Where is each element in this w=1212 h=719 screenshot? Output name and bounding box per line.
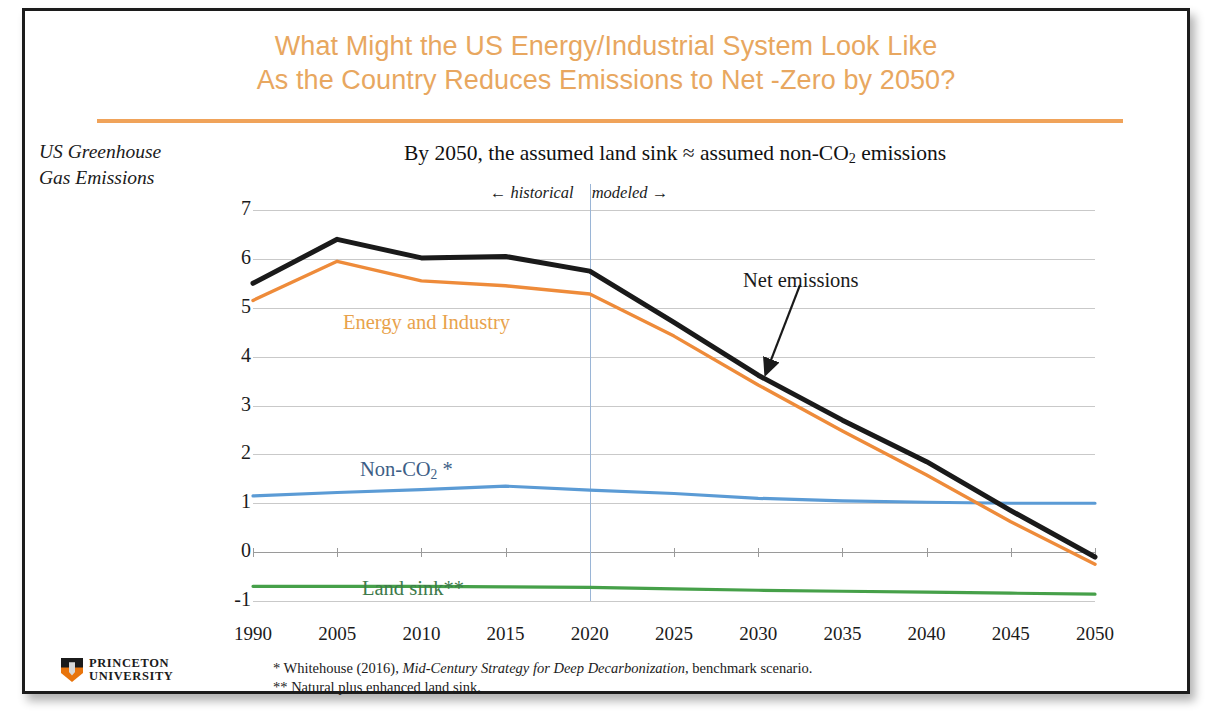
chart-title-post: emissions	[856, 141, 946, 165]
x-axis-tick-labels: 1990200520102015202020252030203520402045…	[253, 623, 1095, 649]
chart-side-caption: US Greenhouse Gas Emissions	[39, 139, 209, 191]
y-tick-7: 7	[221, 197, 251, 220]
side-caption-line-1: US Greenhouse	[39, 139, 209, 165]
princeton-logo: PRINCETON UNIVERSITY	[61, 657, 174, 683]
x-tick-2035: 2035	[823, 623, 861, 645]
x-tick-2050: 2050	[1076, 623, 1114, 645]
net-emissions-arrow	[253, 210, 1095, 601]
series-label-net-emissions: Net emissions	[743, 269, 859, 292]
y-axis-tick-labels: 76543210-1	[221, 191, 251, 621]
gridline--1	[253, 601, 1095, 602]
title-line-2: As the Country Reduces Emissions to Net …	[25, 63, 1187, 97]
x-tick-2040: 2040	[908, 623, 946, 645]
series-label-non-co2: Non-CO2 *	[360, 458, 453, 483]
x-tick-2005: 2005	[318, 623, 356, 645]
footnote-one: * Whitehouse (2016), Mid-Century Strateg…	[273, 659, 812, 678]
slide-title: What Might the US Energy/Industrial Syst…	[25, 29, 1187, 97]
footnote-one-suffix: , benchmark scenario.	[685, 660, 812, 676]
y-tick--1: -1	[221, 588, 251, 611]
y-tick-4: 4	[221, 344, 251, 367]
x-tick-2025: 2025	[655, 623, 693, 645]
footnote-two: ** Natural plus enhanced land sink.	[273, 678, 812, 697]
series-label-land-sink: Land sink**	[362, 577, 464, 600]
era-annotation: ← historicalmodeled →	[490, 183, 668, 203]
y-tick-2: 2	[221, 441, 251, 464]
chart-title-sub: 2	[849, 150, 856, 166]
chart-title: By 2050, the assumed land sink ≈ assumed…	[225, 141, 1125, 167]
x-tick-2030: 2030	[739, 623, 777, 645]
era-modeled-label: modeled →	[583, 183, 669, 202]
x-tick-2020: 2020	[571, 623, 609, 645]
x-tick-2045: 2045	[992, 623, 1030, 645]
logo-line-2: UNIVERSITY	[89, 670, 174, 683]
shield-icon	[61, 658, 83, 682]
logo-wordmark: PRINCETON UNIVERSITY	[89, 657, 174, 683]
y-tick-3: 3	[221, 393, 251, 416]
x-tick-1990: 1990	[234, 623, 272, 645]
y-tick-5: 5	[221, 295, 251, 318]
non-co2-pre: Non-CO	[360, 458, 431, 480]
non-co2-post: *	[437, 458, 452, 480]
slide-frame: What Might the US Energy/Industrial Syst…	[22, 8, 1190, 694]
title-divider-rule	[97, 119, 1123, 123]
footnote-one-prefix: * Whitehouse (2016),	[273, 660, 402, 676]
x-tick-2015: 2015	[487, 623, 525, 645]
x-tick-2010: 2010	[402, 623, 440, 645]
side-caption-line-2: Gas Emissions	[39, 165, 209, 191]
footnote-one-italic: Mid-Century Strategy for Deep Decarboniz…	[402, 660, 685, 676]
title-line-1: What Might the US Energy/Industrial Syst…	[25, 29, 1187, 63]
y-tick-1: 1	[221, 490, 251, 513]
series-label-energy-and-industry: Energy and Industry	[343, 311, 510, 334]
footnotes: * Whitehouse (2016), Mid-Century Strateg…	[273, 659, 812, 697]
y-tick-6: 6	[221, 246, 251, 269]
chart-title-pre: By 2050, the assumed land sink ≈ assumed…	[404, 141, 849, 165]
era-historical-label: ← historical	[490, 183, 583, 202]
chart-plot-area	[253, 210, 1095, 601]
y-tick-0: 0	[221, 539, 251, 562]
